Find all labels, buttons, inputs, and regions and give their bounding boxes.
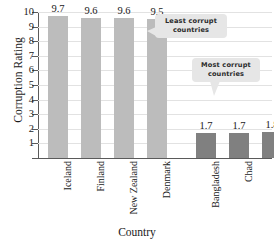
y-axis-tick-label: 8 <box>16 36 34 46</box>
x-axis-category-label: New Zealand <box>128 161 139 215</box>
y-axis-tick-label: 7 <box>16 51 34 61</box>
corruption-rating-bar-chart: Corruption Rating 10987654321 9.79.69.69… <box>0 0 274 243</box>
annotation-least-corrupt: Least corrupt countries <box>155 14 227 38</box>
y-axis-tick-label: 10 <box>16 7 34 17</box>
callout-tail-icon <box>147 27 156 36</box>
bar <box>262 132 274 158</box>
y-axis-tick-label: 4 <box>16 95 34 105</box>
callout-tail-icon <box>210 81 220 96</box>
bar-value-label: 9.6 <box>75 5 107 16</box>
bar <box>147 19 167 158</box>
x-axis-category-label: Bangladesh <box>210 161 221 208</box>
bar <box>114 18 134 158</box>
x-axis-category-label: Iceland <box>62 161 73 190</box>
bar <box>48 16 68 158</box>
bar-value-label: 9.6 <box>108 5 140 16</box>
x-axis-category-label: Chad <box>243 161 254 182</box>
y-axis-tick-label: 5 <box>16 80 34 90</box>
bar <box>196 133 216 158</box>
x-axis-line <box>32 158 272 159</box>
y-axis-tick-label: 6 <box>16 65 34 75</box>
y-axis-tick-label: 3 <box>16 109 34 119</box>
bar-value-label: 9.7 <box>42 3 74 14</box>
annotation-most-corrupt: Most corrupt countries <box>192 58 260 82</box>
annotation-least-line2: countries <box>173 26 209 34</box>
bar-value-label: 1.7 <box>190 120 222 131</box>
x-axis-category-label: Finland <box>95 161 106 192</box>
annotation-least-line1: Least corrupt <box>165 17 217 25</box>
y-axis-tick-label: 1 <box>16 138 34 148</box>
bar <box>229 133 249 158</box>
x-axis-category-label: Denmark <box>161 161 172 198</box>
bar-value-label: 1.8 <box>256 119 274 130</box>
bar <box>81 18 101 158</box>
y-axis-tick-label: 2 <box>16 124 34 134</box>
annotation-most-line1: Most corrupt <box>201 61 251 69</box>
y-axis-tick-label: 9 <box>16 22 34 32</box>
annotation-most-line2: countries <box>208 70 244 78</box>
x-axis-title: Country <box>0 226 274 238</box>
bar-value-label: 1.7 <box>223 120 255 131</box>
